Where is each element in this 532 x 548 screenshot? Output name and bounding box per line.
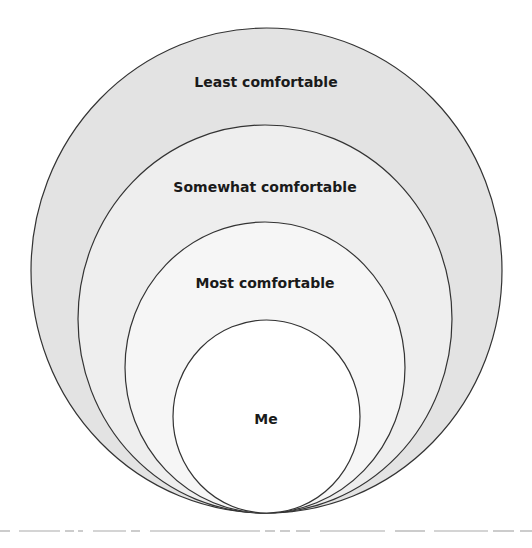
comfort-zone-diagram xyxy=(0,0,532,548)
layer-circle-me xyxy=(173,320,360,513)
